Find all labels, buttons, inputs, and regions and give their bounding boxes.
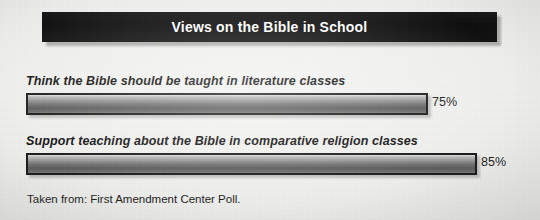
title-banner: Views on the Bible in School <box>42 12 497 42</box>
bar-label-comparative-religion-classes: Support teaching about the Bible in comp… <box>26 134 418 148</box>
source-note: Taken from: First Amendment Center Poll. <box>27 193 240 205</box>
bar-value-literature-classes: 75% <box>432 95 457 109</box>
bar-label-literature-classes: Think the Bible should be taught in lite… <box>26 74 345 88</box>
page-title: Views on the Bible in School <box>172 19 368 35</box>
bar-fill-literature-classes <box>26 93 428 115</box>
slide-canvas: Views on the Bible in School Think the B… <box>0 0 540 220</box>
bar-row-comparative-religion-classes <box>26 153 477 175</box>
bar-value-comparative-religion-classes: 85% <box>481 155 506 169</box>
bar-row-literature-classes <box>26 93 428 115</box>
bar-fill-comparative-religion-classes <box>26 153 477 175</box>
